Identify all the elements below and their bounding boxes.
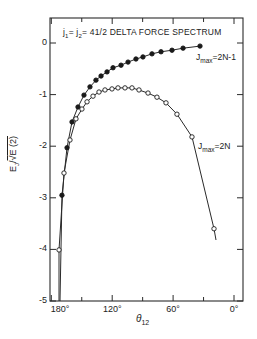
- open-circle-marker: [80, 107, 84, 111]
- filled-circle-marker: [60, 193, 64, 197]
- y-tick-label: -3: [33, 192, 47, 202]
- filled-circle-marker: [141, 55, 145, 59]
- data-curves: [59, 46, 216, 301]
- open-circle-marker: [110, 87, 114, 91]
- filled-circle-marker: [170, 48, 174, 52]
- open-circle-marker: [130, 86, 134, 90]
- filled-circle-marker: [159, 50, 163, 54]
- open-circle-marker: [155, 95, 159, 99]
- y-tick-label: -5: [33, 295, 47, 305]
- y-axis-label: EJ/√E (2): [8, 136, 20, 172]
- x-axis-label: θ12: [136, 313, 149, 326]
- open-circle-marker: [137, 88, 141, 92]
- filled-circle-marker: [105, 70, 109, 74]
- chart-title: j1= j2= 41/2 DELTA FORCE SPECTRUM: [63, 27, 221, 39]
- series-label-jmax-2n-1: Jmax=2N-1: [196, 52, 236, 64]
- open-circle-marker: [175, 112, 179, 116]
- open-circle-marker: [85, 100, 89, 104]
- open-circle-marker: [164, 101, 168, 105]
- series-label-jmax-2n: Jmax=2N: [198, 141, 230, 153]
- chart-plot-area: [0, 0, 257, 339]
- open-circle-marker: [62, 171, 66, 175]
- series-line: [59, 88, 216, 301]
- filled-circle-marker: [70, 120, 74, 124]
- filled-circle-marker: [94, 78, 98, 82]
- y-tick-label: -1: [33, 89, 47, 99]
- open-circle-marker: [212, 227, 216, 231]
- filled-circle-marker: [181, 46, 185, 50]
- open-circle-marker: [74, 117, 78, 121]
- filled-circle-marker: [198, 44, 202, 48]
- filled-circle-marker: [82, 93, 86, 97]
- y-tick-label: 0: [33, 37, 47, 47]
- y-tick-label: -2: [33, 140, 47, 150]
- x-tick-label: 60°: [166, 304, 180, 314]
- x-tick-label: 180°: [51, 304, 70, 314]
- open-circle-marker: [97, 90, 101, 94]
- open-circle-marker: [103, 88, 107, 92]
- filled-circle-marker: [111, 66, 115, 70]
- filled-circle-marker: [126, 60, 130, 64]
- open-circle-marker: [68, 138, 72, 142]
- filled-circle-marker: [99, 74, 103, 78]
- filled-circle-marker: [88, 85, 92, 89]
- y-tick-label: -4: [33, 243, 47, 253]
- filled-circle-marker: [150, 52, 154, 56]
- open-circle-marker: [123, 86, 127, 90]
- x-tick-label: 120°: [103, 304, 122, 314]
- open-circle-marker: [57, 248, 61, 252]
- x-tick-label: 0°: [230, 304, 239, 314]
- data-markers: [57, 44, 216, 252]
- series-line: [60, 46, 200, 301]
- filled-circle-marker: [119, 63, 123, 67]
- open-circle-marker: [116, 86, 120, 90]
- open-circle-marker: [91, 94, 95, 98]
- filled-circle-marker: [65, 146, 69, 150]
- open-circle-marker: [146, 91, 150, 95]
- open-circle-marker: [190, 135, 194, 139]
- filled-circle-marker: [134, 57, 138, 61]
